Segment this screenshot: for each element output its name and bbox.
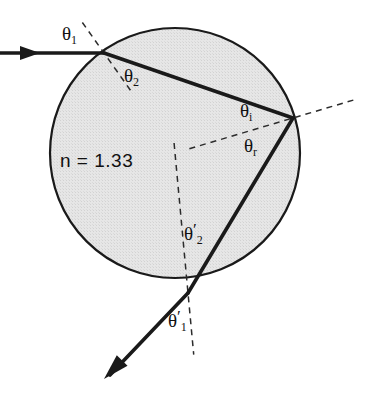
theta1-prime-subscript: 1 [181, 320, 187, 334]
theta2-prime-subscript: 2 [197, 233, 203, 247]
theta1-prime-symbol: θ [168, 310, 177, 331]
theta2-prime-symbol: θ [184, 223, 193, 244]
refractive-index-label: n = 1.33 [60, 150, 133, 172]
angle-label-theta1: θ1 [62, 24, 77, 43]
angle-label-theta-i: θi [240, 101, 252, 120]
angle-label-theta2: θ2 [124, 66, 139, 85]
angle-label-theta1-prime: θ′1 [168, 311, 187, 330]
theta1-subscript: 1 [71, 33, 77, 47]
angle-label-theta-r: θr [244, 136, 257, 155]
theta2-subscript: 2 [133, 75, 139, 89]
theta-i-subscript: i [249, 110, 252, 124]
theta2-symbol: θ [124, 65, 133, 86]
theta-r-subscript: r [253, 145, 257, 159]
optics-figure: θ1 θ2 θi θr θ′2 θ′1 n = 1.33 [0, 0, 375, 411]
incident-ray-arrowhead [20, 46, 40, 60]
theta1-symbol: θ [62, 23, 71, 44]
angle-label-theta2-prime: θ′2 [184, 224, 203, 243]
ray-diagram-canvas [0, 0, 375, 411]
theta-r-symbol: θ [244, 135, 253, 156]
theta-i-symbol: θ [240, 100, 249, 121]
